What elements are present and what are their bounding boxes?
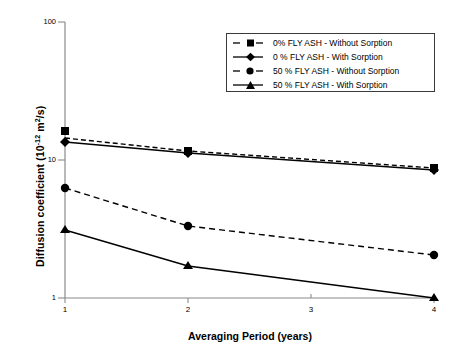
- y-axis-title-main: Diffusion coefficient (10: [34, 145, 46, 267]
- y-axis-title-mid: m: [34, 122, 46, 134]
- data-point-marker: [61, 127, 69, 135]
- legend-label: 0% FLY ASH - Without Sorption: [271, 38, 392, 48]
- chart-legend: 0% FLY ASH - Without Sorption 0 % FLY AS…: [226, 33, 435, 92]
- data-point-marker: [430, 251, 438, 259]
- data-point-marker: [61, 184, 69, 192]
- x-tick-label-3: 3: [301, 305, 321, 314]
- series-line: [65, 138, 434, 168]
- series-line: [65, 142, 434, 170]
- x-tick-label-1: 1: [55, 305, 75, 314]
- chart-figure: 100 10 1 1 2 3 4 Diffusion coefficient (…: [0, 0, 469, 355]
- series-line: [65, 188, 434, 255]
- legend-item-3[interactable]: 50 % FLY ASH - With Sorption: [231, 78, 432, 92]
- x-tick-label-2: 2: [178, 305, 198, 314]
- legend-item-0[interactable]: 0% FLY ASH - Without Sorption: [231, 36, 432, 50]
- series-50pct-without-sorption: [61, 184, 438, 259]
- legend-label: 50 % FLY ASH - With Sorption: [271, 80, 387, 90]
- series-0pct-without-sorption: [61, 127, 438, 172]
- legend-label: 50 % FLY ASH - Without Sorption: [271, 66, 399, 76]
- legend-marker-triangle-solid: [231, 78, 271, 92]
- x-axis-title: Averaging Period (years): [65, 330, 435, 342]
- data-point-marker: [184, 222, 192, 230]
- y-tick-label-1: 1: [30, 294, 56, 302]
- x-tick-label-4: 4: [424, 305, 444, 314]
- legend-marker-square-dashed: [231, 36, 271, 50]
- y-axis-ticks: [58, 22, 65, 298]
- legend-marker-circle-dashed: [231, 64, 271, 78]
- series-line: [65, 230, 434, 298]
- y-axis-title-tail: /s): [34, 106, 46, 119]
- data-point-marker: [60, 225, 70, 233]
- legend-label: 0 % FLY ASH - With Sorption: [271, 52, 383, 62]
- series-0pct-with-sorption: [60, 137, 439, 175]
- legend-item-2[interactable]: 50 % FLY ASH - Without Sorption: [231, 64, 432, 78]
- y-axis-title: Diffusion coefficient (10-12 m2/s): [34, 86, 47, 286]
- legend-marker-diamond-solid: [231, 50, 271, 64]
- legend-item-1[interactable]: 0 % FLY ASH - With Sorption: [231, 50, 432, 64]
- y-axis-title-sup2: 2: [34, 118, 42, 122]
- series-50pct-with-sorption: [60, 225, 439, 301]
- y-tick-label-100: 100: [30, 18, 56, 26]
- y-axis-title-wrap: Diffusion coefficient (10-12 m2/s): [14, 60, 36, 260]
- y-axis-title-exponent: -12: [34, 135, 42, 146]
